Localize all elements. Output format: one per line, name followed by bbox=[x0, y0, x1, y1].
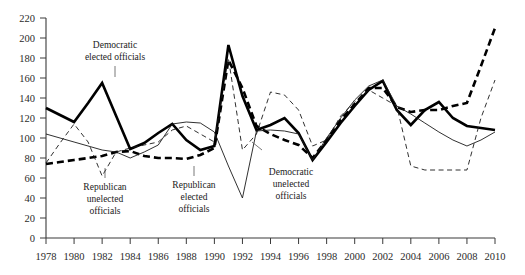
series-line-0 bbox=[46, 45, 495, 160]
x-tick-label: 1978 bbox=[36, 251, 57, 262]
x-tick-label: 1980 bbox=[64, 251, 85, 262]
x-tick-label: 2000 bbox=[344, 251, 365, 262]
x-axis-tick-labels: 1978198019821984198619881990199219941996… bbox=[36, 251, 506, 262]
annotation-label-0: Democraticelected officials bbox=[85, 40, 146, 62]
y-tick-label: 80 bbox=[25, 153, 36, 164]
annotation-label-1: Republicanunelectedofficials bbox=[83, 182, 127, 216]
x-axis-tick-marks bbox=[46, 238, 495, 244]
x-tick-label: 2008 bbox=[456, 251, 477, 262]
annotation-line: elected officials bbox=[85, 52, 146, 62]
annotation-label-2: Republicanelectedofficials bbox=[172, 180, 216, 214]
x-tick-label: 1998 bbox=[316, 251, 337, 262]
x-tick-label: 1984 bbox=[120, 251, 142, 262]
x-tick-label: 1982 bbox=[92, 251, 113, 262]
line-chart: 020406080100120140160180200220 197819801… bbox=[0, 0, 525, 275]
annotation-line: Republican bbox=[83, 182, 127, 192]
y-tick-label: 100 bbox=[19, 133, 35, 144]
annotation-line: officials bbox=[276, 191, 307, 201]
x-tick-label: 1994 bbox=[260, 251, 282, 262]
y-tick-label: 160 bbox=[19, 73, 35, 84]
y-tick-label: 20 bbox=[25, 213, 36, 224]
x-tick-label: 2006 bbox=[428, 251, 449, 262]
annotation-line: Democratic bbox=[93, 40, 137, 50]
series-line-2 bbox=[46, 80, 495, 198]
x-tick-label: 2010 bbox=[485, 251, 506, 262]
x-tick-label: 1996 bbox=[288, 251, 309, 262]
y-tick-label: 60 bbox=[25, 173, 36, 184]
y-tick-label: 0 bbox=[30, 233, 35, 244]
y-tick-label: 140 bbox=[19, 93, 35, 104]
annotation-label-3: Democraticunelectedofficials bbox=[269, 167, 313, 201]
annotation-line: unelected bbox=[87, 194, 124, 204]
y-tick-label: 120 bbox=[19, 113, 35, 124]
y-tick-label: 180 bbox=[19, 53, 35, 64]
series-line-3 bbox=[46, 58, 495, 176]
annotation-group: Democraticelected officialsRepublicanune… bbox=[83, 40, 313, 216]
y-tick-label: 200 bbox=[19, 33, 35, 44]
x-tick-label: 1990 bbox=[204, 251, 225, 262]
x-tick-label: 1986 bbox=[148, 251, 169, 262]
x-tick-label: 2002 bbox=[372, 251, 393, 262]
x-tick-label: 2004 bbox=[400, 251, 422, 262]
annotation-line: unelected bbox=[273, 179, 310, 189]
y-tick-label: 220 bbox=[19, 13, 35, 24]
annotation-line: officials bbox=[179, 204, 210, 214]
y-axis-tick-labels: 020406080100120140160180200220 bbox=[19, 13, 35, 244]
x-tick-label: 1988 bbox=[176, 251, 197, 262]
x-tick-label: 1992 bbox=[232, 251, 253, 262]
chart-container: 020406080100120140160180200220 197819801… bbox=[0, 0, 525, 275]
annotation-line: elected bbox=[181, 192, 208, 202]
annotation-line: officials bbox=[90, 206, 121, 216]
y-tick-label: 40 bbox=[25, 193, 36, 204]
annotation-line: Republican bbox=[172, 180, 216, 190]
annotation-line: Democratic bbox=[269, 167, 313, 177]
y-axis-tick-marks bbox=[40, 18, 46, 238]
